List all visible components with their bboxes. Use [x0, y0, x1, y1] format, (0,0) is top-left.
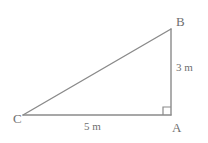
hypotenuse-line-cb	[23, 29, 171, 115]
geometry-figure: B A C 3 m 5 m	[0, 0, 208, 143]
vertex-label-b: B	[176, 15, 185, 28]
vertex-label-c: C	[13, 112, 22, 125]
side-length-label-ca: 5 m	[84, 121, 101, 132]
vertex-label-a: A	[172, 121, 181, 134]
right-angle-square-icon	[163, 107, 171, 115]
side-length-label-ab: 3 m	[176, 62, 193, 73]
